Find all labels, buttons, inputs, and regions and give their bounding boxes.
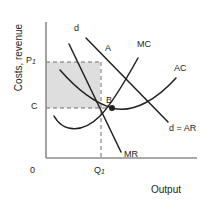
curve-label-d: d	[74, 24, 79, 33]
y-tick-price: P1	[26, 56, 36, 65]
y-tick-cost: C	[31, 102, 38, 111]
x-tick-quantity: Q1	[94, 166, 105, 175]
profit-rectangle	[46, 62, 100, 108]
curve-label-mc: MC	[137, 40, 151, 49]
point-label-b: B	[106, 96, 112, 105]
x-tick-origin: 0	[30, 166, 35, 175]
point-label-a: A	[105, 44, 111, 53]
curve-label-mr: MR	[124, 150, 138, 159]
curve-label-ac: AC	[174, 64, 187, 73]
economics-chart: Costs, revenue Output P1 C 0 Q1 d A MC A…	[0, 0, 220, 212]
curve-label-d-ar: d = AR	[169, 124, 196, 133]
point-b-marker	[109, 105, 115, 111]
y-axis-title: Costs, revenue	[13, 14, 24, 102]
x-axis-title: Output	[151, 184, 181, 195]
